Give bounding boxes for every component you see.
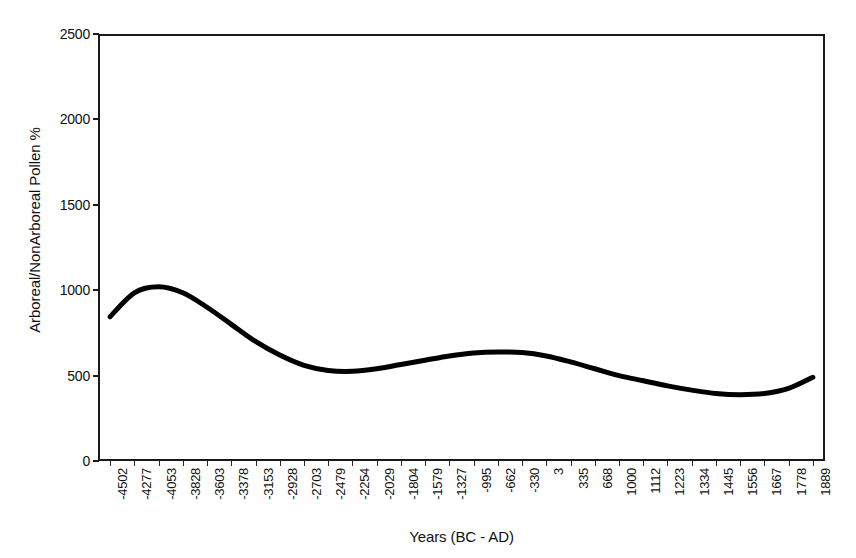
x-tick-label: -330: [528, 468, 542, 532]
x-tick-mark: [110, 461, 111, 466]
y-axis-title: Arboreal/NonArboreal Pollen %: [22, 85, 48, 375]
y-tick-label: 2000: [18, 112, 90, 126]
x-tick-label: -3828: [189, 468, 203, 532]
x-tick-label: -662: [504, 468, 518, 532]
x-tick-mark: [474, 461, 475, 466]
x-tick-mark: [207, 461, 208, 466]
x-tick-label: -4053: [165, 468, 179, 532]
x-tick-mark: [425, 461, 426, 466]
y-tick-mark: [93, 460, 99, 462]
x-tick-label: 668: [601, 468, 615, 532]
x-tick-label: 3: [552, 468, 566, 532]
x-tick-label: 1223: [673, 468, 687, 532]
x-tick-mark: [522, 461, 523, 466]
y-tick-mark: [93, 118, 99, 120]
x-tick-label: -995: [480, 468, 494, 532]
pollen-line-chart: Arboreal/NonArboreal Pollen % 2500200015…: [0, 0, 856, 558]
x-tick-label: -1804: [407, 468, 421, 532]
x-tick-mark: [595, 461, 596, 466]
x-tick-label: -2703: [310, 468, 324, 532]
y-tick-mark: [93, 289, 99, 291]
y-tick-mark: [93, 33, 99, 35]
y-tick-mark: [93, 204, 99, 206]
x-tick-label: -1579: [431, 468, 445, 532]
x-tick-mark: [813, 461, 814, 466]
x-tick-mark: [183, 461, 184, 466]
y-tick-label: 1500: [18, 198, 90, 212]
x-tick-mark: [449, 461, 450, 466]
y-tick-label: 0: [18, 454, 90, 468]
x-tick-label: -1327: [455, 468, 469, 532]
x-tick-label: 1889: [819, 468, 833, 532]
x-tick-mark: [789, 461, 790, 466]
y-tick-label: 1000: [18, 283, 90, 297]
y-tick-label: 500: [18, 369, 90, 383]
x-tick-mark: [256, 461, 257, 466]
x-tick-mark: [159, 461, 160, 466]
x-tick-label: 1445: [722, 468, 736, 532]
x-tick-mark: [764, 461, 765, 466]
x-tick-mark: [377, 461, 378, 466]
x-tick-mark: [134, 461, 135, 466]
x-tick-label: 1667: [770, 468, 784, 532]
data-series-line: [110, 287, 813, 395]
x-tick-label: 1000: [625, 468, 639, 532]
x-tick-mark: [692, 461, 693, 466]
x-tick-label: -4277: [140, 468, 154, 532]
x-tick-mark: [231, 461, 232, 466]
x-tick-mark: [304, 461, 305, 466]
x-tick-mark: [280, 461, 281, 466]
x-tick-mark: [619, 461, 620, 466]
x-tick-label: -4502: [116, 468, 130, 532]
x-tick-label: 1112: [649, 468, 663, 532]
x-tick-mark: [643, 461, 644, 466]
chart-line-layer: [98, 34, 825, 461]
x-tick-mark: [498, 461, 499, 466]
x-tick-mark: [716, 461, 717, 466]
x-tick-mark: [328, 461, 329, 466]
x-tick-mark: [571, 461, 572, 466]
x-tick-label: -2029: [383, 468, 397, 532]
x-tick-label: -2254: [358, 468, 372, 532]
x-tick-mark: [352, 461, 353, 466]
x-tick-label: 1556: [746, 468, 760, 532]
x-tick-label: 335: [577, 468, 591, 532]
x-axis-title: Years (BC - AD): [98, 528, 825, 545]
x-tick-mark: [546, 461, 547, 466]
x-tick-label: -3603: [213, 468, 227, 532]
x-tick-label: -3378: [237, 468, 251, 532]
x-tick-label: -2928: [286, 468, 300, 532]
x-tick-label: 1778: [795, 468, 809, 532]
x-tick-label: -2479: [334, 468, 348, 532]
x-tick-mark: [740, 461, 741, 466]
x-tick-label: 1334: [698, 468, 712, 532]
x-tick-mark: [401, 461, 402, 466]
y-tick-label: 2500: [18, 27, 90, 41]
x-tick-mark: [667, 461, 668, 466]
x-tick-label: -3153: [262, 468, 276, 532]
y-tick-mark: [93, 375, 99, 377]
